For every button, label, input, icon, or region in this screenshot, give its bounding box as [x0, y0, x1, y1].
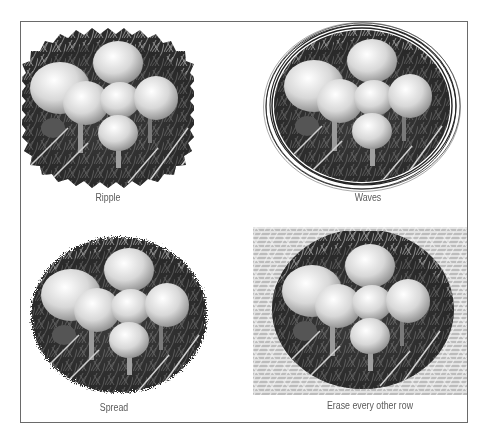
caption-waves: Waves — [349, 192, 388, 203]
panel-erase-rows — [253, 227, 467, 395]
caption-ripple: Ripple — [90, 192, 125, 203]
caption-erase-rows: Erase every other row — [317, 400, 423, 411]
panel-spread — [24, 231, 214, 399]
panel-ripple — [22, 26, 194, 190]
ripple-mushroom-image — [22, 26, 194, 190]
waves-mushroom-image — [262, 20, 462, 192]
spread-mushroom-image — [24, 231, 214, 399]
panel-waves — [262, 20, 462, 192]
erase-rows-mushroom-image — [253, 227, 467, 395]
caption-spread: Spread — [96, 402, 131, 413]
